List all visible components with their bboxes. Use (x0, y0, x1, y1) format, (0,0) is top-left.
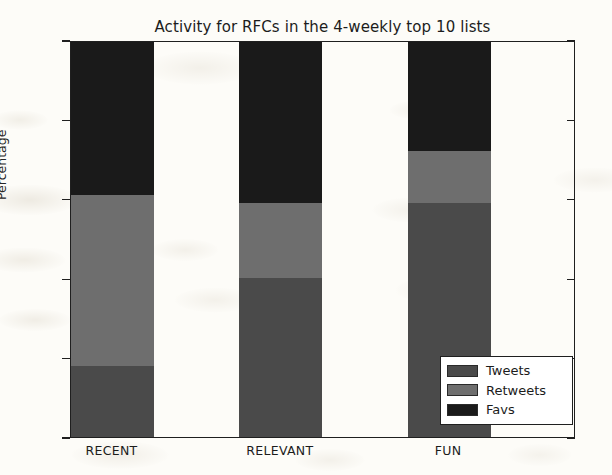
legend-label: Retweets (486, 383, 546, 398)
bar-segment-retweets (239, 203, 322, 278)
legend-item-retweets: Retweets (447, 381, 567, 401)
bar-stack (71, 42, 154, 437)
chart-legend: TweetsRetweetsFavs (440, 356, 573, 425)
legend-swatch-tweets (447, 365, 478, 377)
bar-segment-tweets (71, 366, 154, 437)
bar-segment-favs (408, 41, 491, 151)
y-tick-mark (62, 358, 70, 359)
legend-item-tweets: Tweets (447, 361, 567, 381)
chart-figure: Activity for RFCs in the 4-weekly top 10… (0, 0, 612, 475)
y-tick-mark (62, 279, 70, 280)
chart-title: Activity for RFCs in the 4-weekly top 10… (70, 18, 575, 36)
bar-stack (239, 42, 322, 437)
bar-segment-retweets (408, 151, 491, 203)
legend-label: Tweets (486, 363, 530, 378)
bar-segment-retweets (71, 195, 154, 366)
y-tick-mark (62, 40, 70, 41)
legend-item-favs: Favs (447, 400, 567, 420)
x-tick-label: RELEVANT (200, 443, 360, 458)
bar-group-recent (71, 42, 154, 437)
legend-swatch-favs (447, 404, 478, 416)
y-axis-label: Percentage (0, 130, 9, 200)
bar-group-relevant (239, 42, 322, 437)
y-tick-mark (62, 199, 70, 200)
x-tick-label: FUN (368, 443, 528, 458)
x-tick-label: RECENT (32, 443, 192, 458)
bar-segment-favs (71, 41, 154, 195)
bar-segment-tweets (239, 278, 322, 437)
bar-segment-favs (239, 41, 322, 203)
y-tick-mark (62, 120, 70, 121)
legend-label: Favs (486, 402, 515, 417)
legend-swatch-retweets (447, 384, 478, 396)
y-tick-mark (62, 437, 70, 438)
